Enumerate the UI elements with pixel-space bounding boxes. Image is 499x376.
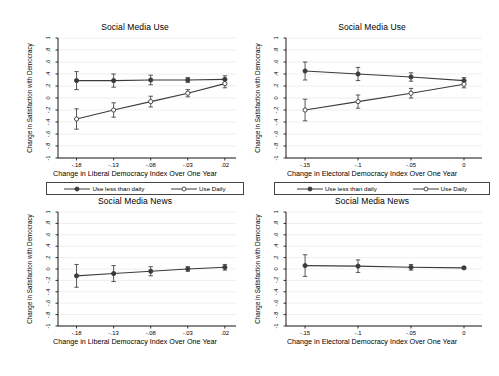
y-tick-label: -.4 xyxy=(44,115,52,129)
y-tick-label: 0 xyxy=(272,91,280,105)
plot-area xyxy=(252,196,492,348)
y-tick-label: -.2 xyxy=(272,103,280,117)
x-tick-label: -.03 xyxy=(173,162,203,168)
legend-label: Use less than daily xyxy=(92,185,144,192)
chart-legend: Use less than dailyUse Daily xyxy=(46,182,244,195)
x-tick-label: -.08 xyxy=(136,330,166,336)
y-tick-label: -.8 xyxy=(272,139,280,153)
y-tick-label: .4 xyxy=(44,67,52,81)
plot-area xyxy=(24,22,246,180)
data-point xyxy=(186,91,190,95)
legend-line-hollow-circle-icon xyxy=(171,185,197,193)
data-point xyxy=(74,274,78,278)
legend-entry: Use Daily xyxy=(413,185,467,193)
data-point xyxy=(223,82,227,86)
data-point xyxy=(356,72,360,76)
y-tick-label: -.6 xyxy=(272,127,280,141)
legend-label: Use Daily xyxy=(441,185,467,192)
x-tick-label: 0 xyxy=(449,330,479,336)
x-tick-label: -.1 xyxy=(343,330,373,336)
data-point xyxy=(409,265,413,269)
x-axis-label: Change in Liberal Democracy Index Over O… xyxy=(24,169,246,178)
x-tick-label: .02 xyxy=(210,330,240,336)
x-tick-label: -.18 xyxy=(62,330,92,336)
y-tick-label: .8 xyxy=(44,43,52,57)
data-point xyxy=(223,265,227,269)
y-tick-label: 1 xyxy=(44,31,52,45)
legend-entry: Use less than daily xyxy=(297,185,377,193)
y-tick-label: 1 xyxy=(272,205,280,219)
y-tick-label: -.2 xyxy=(44,103,52,117)
data-point xyxy=(149,269,153,273)
legend-entry: Use Daily xyxy=(171,185,225,193)
legend-line-filled-circle-icon xyxy=(64,185,90,193)
y-tick-label: -.6 xyxy=(44,127,52,141)
data-point xyxy=(74,79,78,83)
figure-panel-grid: Social Media UseChange in Satisfaction w… xyxy=(0,0,499,376)
x-tick-label: -.05 xyxy=(396,162,426,168)
data-point xyxy=(74,117,78,121)
x-axis-label: Change in Electoral Democracy Index Over… xyxy=(252,337,492,346)
x-tick-label: .02 xyxy=(210,162,240,168)
x-tick-label: -.05 xyxy=(396,330,426,336)
data-point xyxy=(303,108,307,112)
y-tick-label: .6 xyxy=(44,55,52,69)
data-point xyxy=(112,79,116,83)
chart-panel-top-right: Social Media UseChange in Satisfaction w… xyxy=(252,22,492,180)
y-tick-label: -1 xyxy=(44,151,52,165)
x-tick-label: -.1 xyxy=(343,162,373,168)
data-point xyxy=(356,100,360,104)
chart-panel-bottom-right: Social Media NewsChange in Satisfaction … xyxy=(252,196,492,348)
legend-label: Use Daily xyxy=(199,185,225,192)
legend-label: Use less than daily xyxy=(325,185,377,192)
x-tick-label: 0 xyxy=(449,162,479,168)
data-point xyxy=(303,263,307,267)
x-tick-label: -.15 xyxy=(290,330,320,336)
y-tick-label: 1 xyxy=(272,31,280,45)
chart-legend: Use less than dailyUse Daily xyxy=(274,182,490,195)
data-point xyxy=(409,75,413,79)
x-tick-label: -.08 xyxy=(136,162,166,168)
data-point xyxy=(186,267,190,271)
x-tick-label: -.13 xyxy=(99,162,129,168)
data-point xyxy=(149,78,153,82)
data-point xyxy=(112,108,116,112)
y-tick-label: .2 xyxy=(44,79,52,93)
data-point xyxy=(409,91,413,95)
data-point xyxy=(356,264,360,268)
y-tick-label: .4 xyxy=(272,67,280,81)
plot-area xyxy=(24,196,246,348)
y-tick-label: -1 xyxy=(272,151,280,165)
legend-entry: Use less than daily xyxy=(64,185,144,193)
y-tick-label: .6 xyxy=(272,55,280,69)
y-tick-label: .2 xyxy=(272,79,280,93)
data-point xyxy=(303,69,307,73)
x-axis-label: Change in Electoral Democracy Index Over… xyxy=(252,169,492,178)
data-point xyxy=(186,78,190,82)
x-tick-label: -.03 xyxy=(173,330,203,336)
x-tick-label: -.18 xyxy=(62,162,92,168)
y-tick-label: .8 xyxy=(272,43,280,57)
y-tick-label: 1 xyxy=(44,205,52,219)
plot-area xyxy=(252,22,492,180)
data-point xyxy=(462,82,466,86)
legend-line-hollow-circle-icon xyxy=(413,185,439,193)
x-tick-label: -.13 xyxy=(99,330,129,336)
y-tick-label: -.4 xyxy=(272,115,280,129)
data-point xyxy=(462,266,466,270)
x-axis-label: Change in Liberal Democracy Index Over O… xyxy=(24,337,246,346)
chart-panel-top-left: Social Media UseChange in Satisfaction w… xyxy=(24,22,246,180)
legend-line-filled-circle-icon xyxy=(297,185,323,193)
data-point xyxy=(149,100,153,104)
chart-panel-bottom-left: Social Media NewsChange in Satisfaction … xyxy=(24,196,246,348)
data-point xyxy=(112,271,116,275)
y-tick-label: -.8 xyxy=(44,139,52,153)
y-tick-label: 0 xyxy=(44,91,52,105)
x-tick-label: -.15 xyxy=(290,162,320,168)
